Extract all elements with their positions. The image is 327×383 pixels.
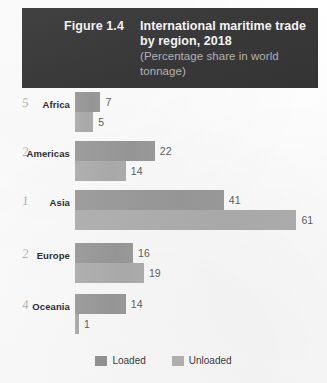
bars-container: 141 [75, 294, 143, 334]
bar-value-label: 1 [84, 319, 90, 330]
bar-row: 61 [75, 210, 313, 230]
bar-value-label: 14 [131, 299, 143, 310]
bars-container: 1619 [75, 243, 161, 283]
bar-group-europe: 2Europe1619 [0, 243, 327, 292]
legend-label: Loaded [112, 355, 145, 366]
legend-swatch-icon [172, 356, 184, 366]
bar-value-label: 22 [160, 146, 172, 157]
bar-row: 1 [75, 314, 143, 334]
bar-row: 22 [75, 141, 172, 161]
category-label-oceania: Oceania [8, 301, 70, 312]
bar-group-africa: 5Africa75 [0, 92, 327, 141]
bars-container: 2214 [75, 141, 172, 181]
category-label-europe: Europe [8, 250, 70, 261]
bar-group-oceania: 4Oceania141 [0, 294, 327, 343]
bar-oceania-unloaded [75, 314, 79, 334]
bar-africa-unloaded [75, 112, 93, 132]
bar-group-asia: 1Asia4161 [0, 190, 327, 239]
bar-value-label: 41 [229, 195, 241, 206]
figure-subtitle: (Percentage share in world tonnage) [140, 49, 310, 78]
bar-row: 41 [75, 190, 313, 210]
bar-oceania-loaded [75, 294, 126, 314]
bars-container: 4161 [75, 190, 313, 230]
legend-item-unloaded[interactable]: Unloaded [172, 355, 232, 366]
category-label-africa: Africa [8, 99, 70, 110]
bar-europe-loaded [75, 243, 133, 263]
bar-asia-loaded [75, 190, 224, 210]
bar-row: 19 [75, 263, 161, 283]
bar-value-label: 61 [301, 215, 313, 226]
bar-row: 14 [75, 294, 143, 314]
bar-value-label: 14 [131, 166, 143, 177]
figure-title: International maritime trade by region, … [140, 19, 310, 48]
bar-asia-unloaded [75, 210, 296, 230]
figure-header: Figure 1.4 International maritime trade … [22, 8, 318, 88]
bar-africa-loaded [75, 92, 100, 112]
category-label-asia: Asia [8, 197, 70, 208]
figure-number: Figure 1.4 [22, 19, 140, 33]
bar-value-label: 19 [149, 268, 161, 279]
bar-row: 16 [75, 243, 161, 263]
figure-header-text: International maritime trade by region, … [140, 19, 310, 78]
legend-item-loaded[interactable]: Loaded [95, 355, 145, 366]
bar-value-label: 5 [98, 117, 104, 128]
bar-americas-unloaded [75, 161, 126, 181]
bar-row: 7 [75, 92, 111, 112]
legend-swatch-icon [95, 356, 107, 366]
bars-container: 75 [75, 92, 111, 132]
bar-row: 14 [75, 161, 172, 181]
legend-label: Unloaded [189, 355, 232, 366]
category-label-americas: Americas [8, 148, 70, 159]
bar-europe-unloaded [75, 263, 144, 283]
bar-chart: 5Africa752Americas22141Asia41612Europe16… [0, 88, 327, 350]
bar-row: 5 [75, 112, 111, 132]
bar-value-label: 16 [138, 248, 150, 259]
bar-value-label: 7 [105, 97, 111, 108]
bar-group-americas: 2Americas2214 [0, 141, 327, 190]
bar-americas-loaded [75, 141, 155, 161]
chart-legend: LoadedUnloaded [0, 355, 327, 366]
